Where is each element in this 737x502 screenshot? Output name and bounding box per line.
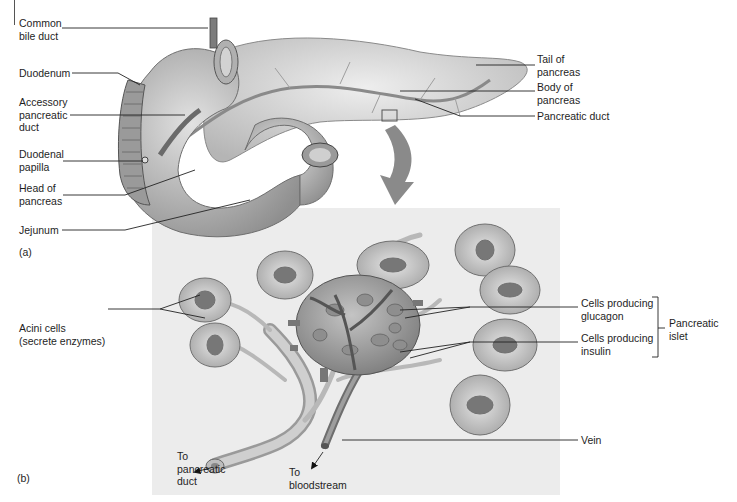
label-duodenum: Duodenum [19, 67, 70, 80]
label-to-bloodstream: To bloodstream [289, 466, 347, 491]
label-cells-producing-insulin: Cells producing insulin [581, 332, 653, 357]
label-vein: Vein [581, 434, 601, 447]
label-acini-cells: Acini cells (secrete enzymes) [19, 322, 105, 347]
label-body-of-pancreas: Body of pancreas [537, 81, 580, 106]
panel-a-tag: (a) [19, 246, 32, 259]
anatomy-illustration [0, 0, 737, 502]
label-head-of-pancreas: Head of pancreas [19, 182, 62, 207]
panel-b-tag: (b) [17, 472, 30, 485]
label-common-bile-duct: Common bile duct [19, 17, 62, 42]
label-duodenal-papilla: Duodenal papilla [19, 148, 64, 173]
vein-opening [321, 443, 329, 449]
label-pancreatic-duct: Pancreatic duct [537, 110, 609, 123]
label-jejunum: Jejunum [19, 224, 59, 237]
label-to-pancreatic-duct: To pancreatic duct [177, 450, 225, 488]
label-pancreatic-islet: Pancreatic islet [669, 317, 719, 342]
zoom-arrow-icon [380, 125, 414, 205]
label-accessory-pancreatic-duct: Accessory pancreatic duct [19, 96, 67, 134]
label-tail-of-pancreas: Tail of pancreas [537, 53, 580, 78]
label-cells-producing-glucagon: Cells producing glucagon [581, 297, 653, 322]
